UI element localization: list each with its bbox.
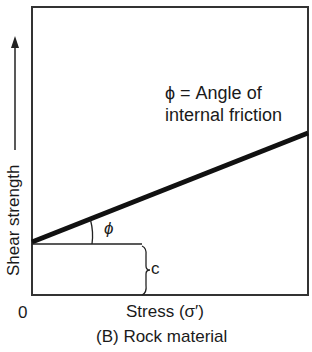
arrow-up-icon (11, 36, 19, 48)
cohesion-brace (142, 246, 150, 295)
figure-caption: (B) Rock material (96, 328, 227, 345)
origin-label: 0 (18, 304, 27, 321)
intercept-label: c (151, 260, 160, 277)
annotation-line-2: internal friction (165, 106, 282, 124)
mohr-coulomb-diagram (0, 0, 312, 352)
angle-symbol: ϕ (104, 220, 113, 237)
failure-envelope-line (32, 133, 308, 242)
annotation-line-1: ϕ = Angle of (165, 84, 262, 102)
y-axis-label: Shear strength (4, 164, 24, 276)
angle-arc (91, 220, 93, 244)
x-axis-label: Stress (σ′) (126, 303, 204, 320)
